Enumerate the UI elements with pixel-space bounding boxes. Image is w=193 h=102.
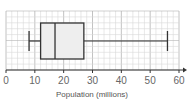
x-tick-label: 10 bbox=[29, 75, 41, 86]
iqr-box bbox=[41, 23, 84, 59]
x-tick-label: 50 bbox=[145, 75, 157, 86]
x-tick-label: 0 bbox=[3, 75, 9, 86]
axis-arrow-icon bbox=[183, 68, 187, 73]
x-tick-label: 40 bbox=[116, 75, 128, 86]
x-axis bbox=[6, 68, 187, 74]
x-tick-label: 30 bbox=[87, 75, 99, 86]
x-tick-label: 20 bbox=[58, 75, 70, 86]
box-plot-chart: 0102030405060 Population (millions) bbox=[0, 0, 193, 102]
x-tick-label: 60 bbox=[173, 75, 185, 86]
x-tick-labels: 0102030405060 bbox=[3, 75, 185, 86]
x-axis-title: Population (millions) bbox=[56, 90, 128, 99]
